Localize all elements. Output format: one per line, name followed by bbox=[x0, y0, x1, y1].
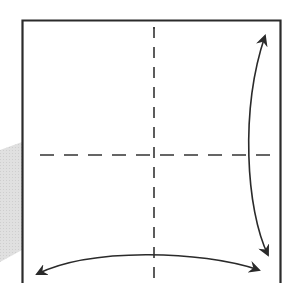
paper-outline bbox=[23, 21, 281, 283]
origami-diagram bbox=[0, 0, 297, 283]
paper-shadow bbox=[0, 142, 22, 262]
fold-line-dot bbox=[153, 27, 155, 29]
